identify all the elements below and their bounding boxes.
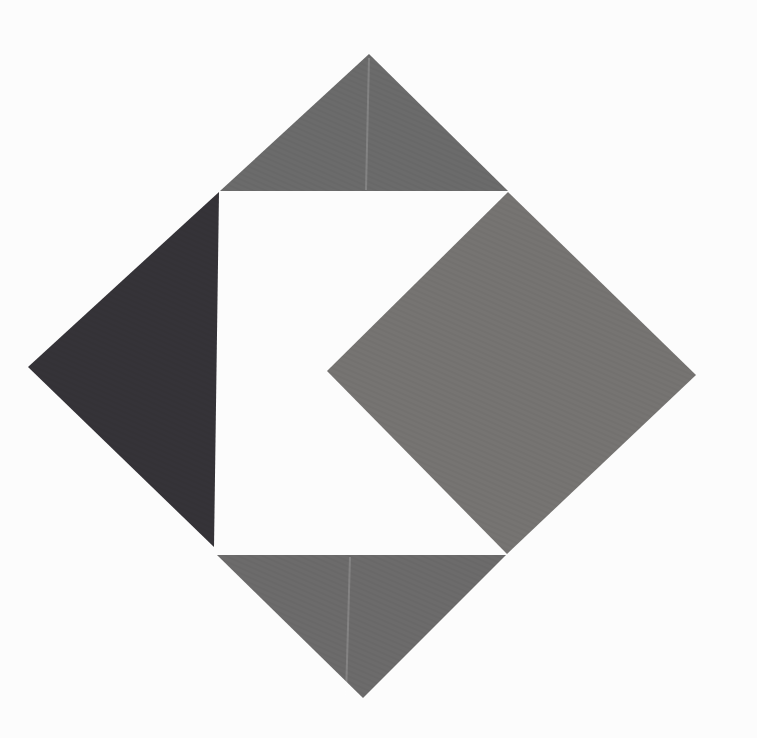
geometric-figure (0, 0, 757, 738)
scanned-artwork-page (0, 0, 757, 738)
